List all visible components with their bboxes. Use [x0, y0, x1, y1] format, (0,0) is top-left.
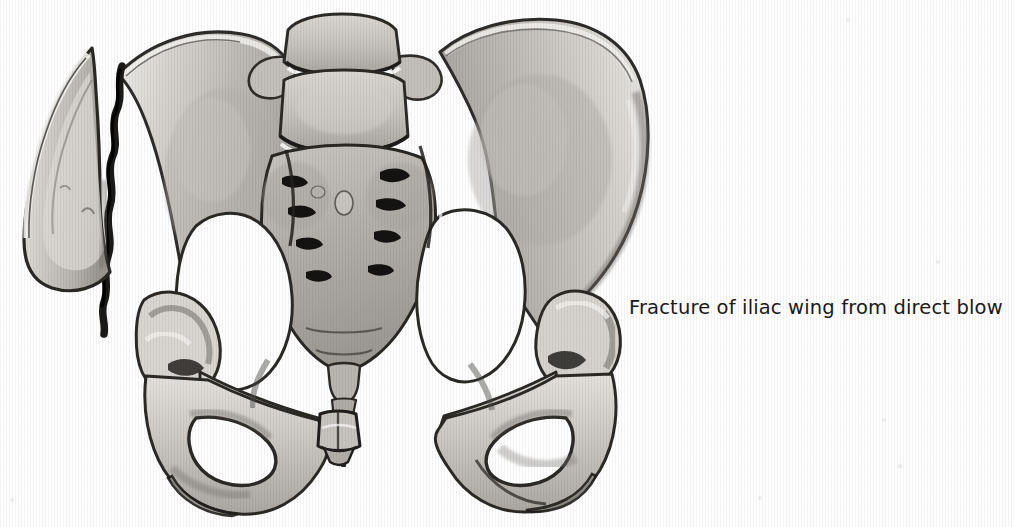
paper-texture [0, 0, 1014, 527]
fracture-caption: Fracture of iliac wing from direct blow [629, 296, 1003, 319]
pelvis-illustration [0, 0, 1014, 527]
illustration-page: Fracture of iliac wing from direct blow [0, 0, 1014, 527]
